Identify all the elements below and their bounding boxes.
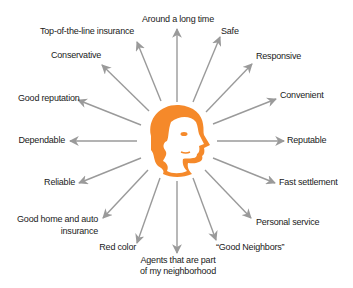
label-fast-settlement: Fast settlement bbox=[279, 177, 338, 188]
label-top-of-the-line-insurance: Top-of-the-line insurance bbox=[40, 26, 134, 37]
head-profile-icon bbox=[150, 105, 210, 177]
label-dependable: Dependable bbox=[10, 135, 65, 146]
label-good-home-line2: insurance bbox=[14, 226, 98, 237]
arrow-fast bbox=[213, 158, 275, 183]
label-around-a-long-time: Around a long time bbox=[140, 14, 216, 25]
label-responsive: Responsive bbox=[256, 51, 301, 62]
arrow-reputation bbox=[78, 100, 141, 125]
label-reputable: Reputable bbox=[287, 135, 326, 146]
arrow-responsive bbox=[206, 64, 252, 112]
arrow-conservative bbox=[102, 65, 149, 111]
arrow-topline bbox=[137, 42, 161, 101]
label-safe: Safe bbox=[221, 26, 239, 37]
label-good-neighbors: “Good Neighbors” bbox=[216, 242, 284, 253]
label-convenient: Convenient bbox=[280, 90, 324, 101]
arrow-personal bbox=[205, 170, 251, 218]
label-conservative: Conservative bbox=[51, 50, 101, 61]
label-good-home-line1: Good home and auto bbox=[14, 214, 98, 225]
arrow-home bbox=[103, 170, 148, 218]
label-reliable: Reliable bbox=[20, 177, 75, 188]
label-good-reputation: Good reputation bbox=[18, 93, 80, 104]
brand-association-diagram: Around a long time Safe Responsive Conve… bbox=[0, 0, 353, 288]
arrow-reliable bbox=[79, 158, 141, 183]
arrow-convenient bbox=[213, 99, 276, 124]
label-agents-line2: of my neighborhood bbox=[138, 266, 218, 277]
label-red-color: Red color bbox=[90, 242, 136, 253]
arrow-safe bbox=[193, 37, 220, 102]
label-agents-line1: Agents that are part bbox=[138, 255, 218, 266]
arrow-neighbors bbox=[193, 178, 216, 240]
label-personal-service: Personal service bbox=[256, 217, 319, 228]
arrow-red bbox=[137, 178, 160, 243]
